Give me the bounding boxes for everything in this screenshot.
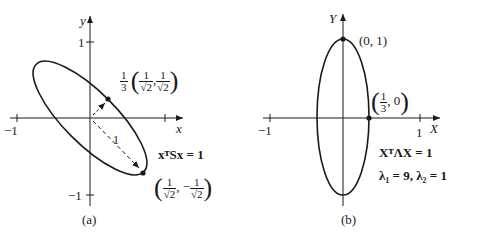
point-right-dot (366, 115, 371, 120)
x-axis-label: x (176, 122, 182, 135)
Y-axis-label: Y (329, 12, 336, 25)
point-long-label: (1√2, −1√2) (154, 175, 212, 201)
tick-label-X-pos: 1 (416, 126, 423, 139)
caption-a: (a) (82, 213, 96, 226)
distance-label: 1 (113, 134, 119, 146)
y-axis-label: y (80, 14, 86, 27)
point-short-dot (105, 96, 110, 101)
short-axis-arrow (93, 103, 105, 115)
equation-a: xᵀSx = 1 (158, 148, 204, 161)
point-right-label: (13, 0) (371, 89, 409, 115)
tick-label-X-neg: −1 (258, 124, 272, 137)
point-long-dot (140, 170, 145, 175)
point-top-label: (0, 1) (359, 34, 387, 47)
point-short-label: 13 (1√2,1√2) (120, 68, 178, 94)
tick-label-x-neg: −1 (4, 124, 18, 137)
tick-label-y-pos: 1 (78, 36, 85, 49)
equation-b: XᵀΛX = 1 (379, 146, 433, 159)
eigenvalues: λ₁ = 9, λ₂ = 1 (379, 169, 447, 182)
caption-b: (b) (341, 213, 356, 226)
X-axis-label: X (430, 122, 438, 135)
point-top-dot (340, 36, 345, 41)
tick-label-y-neg: −1 (68, 189, 82, 202)
